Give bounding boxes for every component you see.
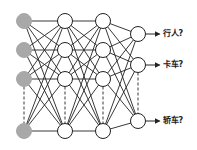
- input-node: [17, 43, 32, 58]
- hidden-node: [96, 43, 111, 58]
- neural-network-diagram: [0, 0, 197, 150]
- network-nodes: [17, 14, 146, 139]
- output-label: 卡车?: [163, 60, 184, 70]
- input-node: [17, 124, 32, 139]
- output-node: [131, 114, 146, 129]
- hidden-node: [96, 72, 111, 87]
- hidden-node: [58, 124, 73, 139]
- hidden-node: [96, 124, 111, 139]
- output-label: 行人?: [163, 29, 184, 39]
- hidden-node: [58, 14, 73, 29]
- output-node: [131, 27, 146, 42]
- hidden-node: [58, 43, 73, 58]
- input-node: [17, 14, 32, 29]
- output-label: 轿车?: [163, 116, 184, 126]
- connection-edges: [24, 21, 138, 131]
- hidden-node: [96, 14, 111, 29]
- hidden-node: [58, 72, 73, 87]
- output-arrows: [146, 34, 160, 121]
- output-node: [131, 58, 146, 73]
- input-node: [17, 72, 32, 87]
